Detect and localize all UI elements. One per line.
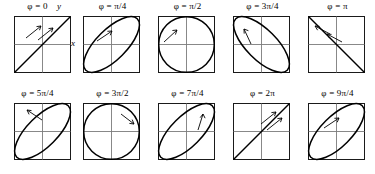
panel-phi-3pi-over-2: φ = 3π/2 <box>75 87 150 174</box>
panel-phi-5pi-over-4: φ = 5π/4 <box>0 87 75 174</box>
panel-plot-9 <box>300 87 375 174</box>
panel-grid: φ = 0 y x <box>0 0 375 174</box>
panel-phi-3pi-over-4: φ = 3π/4 <box>225 0 300 87</box>
direction-arrow <box>164 30 177 42</box>
panel-phi-7pi-over-4: φ = 7π/4 <box>150 87 225 174</box>
panel-plot-0 <box>0 0 75 87</box>
panel-phi-2pi: φ = 2π <box>225 87 300 174</box>
panel-plot-6 <box>75 87 150 174</box>
lissajous-figure: φ = 0 y x <box>0 0 375 174</box>
panel-plot-5 <box>0 87 75 174</box>
panel-plot-3 <box>225 0 300 87</box>
direction-arrow <box>198 114 205 130</box>
panel-plot-2 <box>150 0 225 87</box>
direction-arrow <box>121 114 134 124</box>
panel-phi-pi: φ = π <box>300 0 375 87</box>
panel-phi-9pi-over-4: φ = 9π/4 <box>300 87 375 174</box>
panel-phi-pi-over-2: φ = π/2 <box>150 0 225 87</box>
panel-phi-pi-over-4: φ = π/4 <box>75 0 150 87</box>
panel-plot-1 <box>75 0 150 87</box>
panel-plot-8 <box>225 87 300 174</box>
panel-phi-0: φ = 0 y x <box>0 0 75 87</box>
direction-arrow <box>244 29 251 44</box>
y-axis-label: y <box>57 1 61 11</box>
panel-plot-7 <box>150 87 225 174</box>
direction-arrow <box>315 26 342 42</box>
panel-plot-4 <box>300 0 375 87</box>
